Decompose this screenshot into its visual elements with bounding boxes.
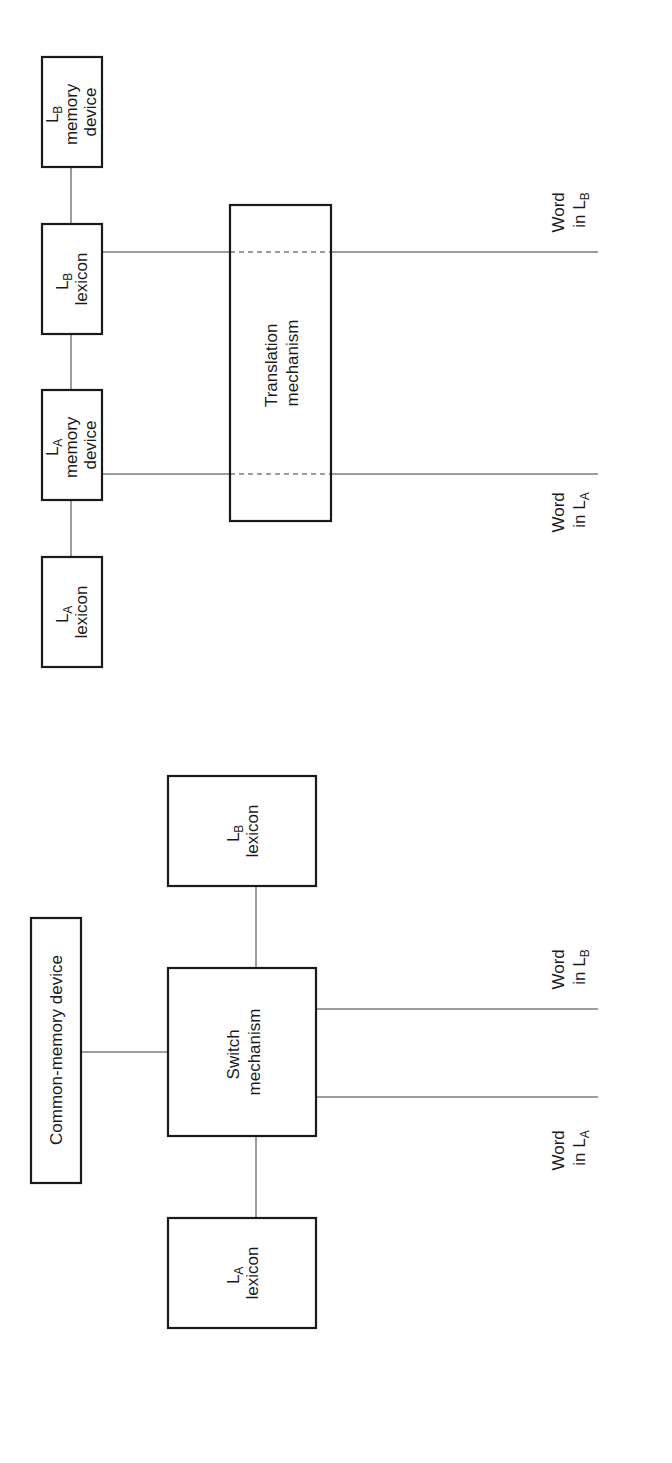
word-in-la-label-top: Word in LA (549, 487, 592, 532)
svg-text:Word in LB: Word in LB (549, 187, 592, 232)
translation-model: LB memory device LB lexicon LA memory de… (42, 57, 598, 667)
la-lexicon-box-switch: LA lexicon (168, 1218, 316, 1328)
switch-mechanism-box: Switch mechanism (168, 968, 316, 1136)
svg-text:Translation mechanism: Translation mechanism (262, 319, 302, 407)
lb-lexicon-box-switch: LB lexicon (168, 776, 316, 886)
svg-text:Word in LB: Word in LB (549, 944, 592, 989)
lb-lexicon-box: LB lexicon (42, 224, 102, 334)
la-lexicon-box: LA lexicon (42, 557, 102, 667)
la-memory-device-box: LA memory device (42, 390, 102, 500)
word-in-lb-label-switch: Word in LB (549, 944, 592, 989)
svg-text:Word in LA: Word in LA (549, 487, 592, 532)
word-in-la-label-switch: Word in LA (549, 1125, 592, 1170)
word-in-lb-label-top: Word in LB (549, 187, 592, 232)
svg-text:Word in LA: Word in LA (549, 1125, 592, 1170)
svg-text:Common-memory device: Common-memory device (47, 955, 66, 1145)
common-memory-device-box: Common-memory device (31, 918, 81, 1183)
switch-model: Common-memory device LB lexicon Switch m… (31, 776, 598, 1328)
lb-memory-device-box: LB memory device (42, 57, 102, 167)
diagram-canvas: LB memory device LB lexicon LA memory de… (0, 0, 672, 1463)
